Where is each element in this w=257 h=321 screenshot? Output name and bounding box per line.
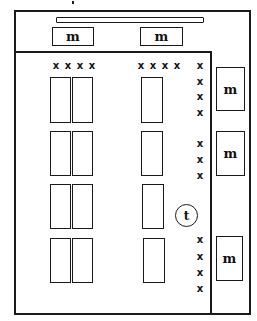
marker-x: x (195, 235, 205, 245)
marker-x: x (148, 61, 158, 71)
marker-x: x (195, 108, 205, 118)
marker-x: x (195, 284, 205, 294)
slot-left-b-row3 (72, 184, 93, 229)
marker-x: x (51, 61, 61, 71)
slot-middle-row3 (142, 184, 164, 229)
marker-x: x (195, 171, 205, 181)
machine-label: m (223, 252, 237, 265)
marker-x: x (195, 92, 205, 102)
slot-middle-row1 (141, 77, 163, 123)
machine-side-1: m (216, 67, 245, 111)
slot-left-b-row2 (72, 131, 93, 176)
marker-x: x (195, 155, 205, 165)
marker-x: x (195, 77, 205, 87)
slot-left-a-row4 (50, 238, 71, 283)
marker-x: x (87, 61, 97, 71)
marker-x: x (160, 61, 170, 71)
top-bar (56, 17, 204, 23)
slot-middle-row4 (143, 238, 165, 283)
inner-area (14, 51, 212, 315)
marker-x: x (195, 268, 205, 278)
slot-left-a-row1 (50, 77, 71, 123)
machine-label: m (224, 147, 238, 160)
machine-top-1: m (52, 27, 94, 46)
machine-top-2: m (140, 27, 183, 46)
terminal-label: t (184, 210, 190, 222)
slot-left-b-row4 (72, 238, 93, 283)
marker-x: x (63, 61, 73, 71)
marker-x: x (172, 61, 182, 71)
machine-label: m (155, 30, 169, 43)
terminal-circle: t (175, 204, 198, 227)
marker-x: x (195, 139, 205, 149)
marker-x: x (136, 61, 146, 71)
machine-side-3: m (216, 236, 243, 281)
marker-x: x (195, 61, 205, 71)
slot-middle-row2 (141, 131, 163, 176)
marker-x: x (195, 252, 205, 262)
slot-left-a-row3 (50, 184, 71, 229)
slot-left-a-row2 (50, 131, 71, 176)
marker-x: x (75, 61, 85, 71)
slot-left-b-row1 (72, 77, 93, 123)
machine-side-2: m (216, 131, 245, 176)
machine-label: m (224, 83, 238, 96)
tick-mark (72, 1, 74, 4)
machine-label: m (66, 30, 80, 43)
